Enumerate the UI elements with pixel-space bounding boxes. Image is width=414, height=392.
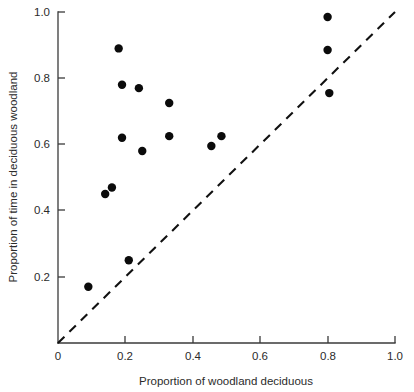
data-point [323, 46, 331, 54]
x-tick-label-0.8: 0.8 [320, 350, 336, 362]
y-tick-label-0.6: 0.6 [34, 138, 50, 150]
data-point [114, 44, 122, 52]
scatter-chart: 1.0 0.8 0.6 0.4 0.2 0 0.2 0.4 0.6 0.8 1.… [0, 0, 414, 392]
x-tick-label-0.4: 0.4 [185, 350, 202, 362]
y-tick-label-0.2: 0.2 [34, 271, 50, 283]
x-tick-label-1.0: 1.0 [387, 350, 403, 362]
data-point [323, 13, 331, 21]
y-axis-tick-labels: 1.0 0.8 0.6 0.4 0.2 [34, 6, 51, 283]
data-point [125, 256, 133, 264]
data-point [135, 84, 143, 92]
data-point [118, 81, 126, 89]
data-point [325, 89, 333, 97]
data-point [118, 134, 126, 142]
data-point [138, 147, 146, 155]
x-axis-tick-labels: 0 0.2 0.4 0.6 0.8 1.0 [55, 350, 403, 362]
data-points-layer [84, 13, 333, 291]
x-axis-ticks [125, 336, 328, 343]
data-point [207, 142, 215, 150]
data-point [165, 132, 173, 140]
y-axis-title: Proportion of time in deciduous woodland [7, 72, 19, 283]
plot-canvas: 1.0 0.8 0.6 0.4 0.2 0 0.2 0.4 0.6 0.8 1.… [0, 0, 414, 392]
chart-annotations [58, 12, 395, 343]
data-point [165, 99, 173, 107]
y-tick-label-0.8: 0.8 [34, 72, 50, 84]
identity-reference-line [58, 12, 395, 343]
x-tick-label-0: 0 [55, 350, 61, 362]
data-point [101, 190, 109, 198]
data-point [108, 183, 116, 191]
y-tick-label-1.0: 1.0 [34, 6, 50, 18]
data-point [217, 132, 225, 140]
x-axis-title: Proportion of woodland deciduous [139, 375, 313, 387]
data-point [84, 283, 92, 291]
y-tick-label-0.4: 0.4 [34, 204, 51, 216]
x-tick-label-0.6: 0.6 [252, 350, 268, 362]
y-axis-ticks [58, 78, 65, 277]
x-tick-label-0.2: 0.2 [117, 350, 133, 362]
